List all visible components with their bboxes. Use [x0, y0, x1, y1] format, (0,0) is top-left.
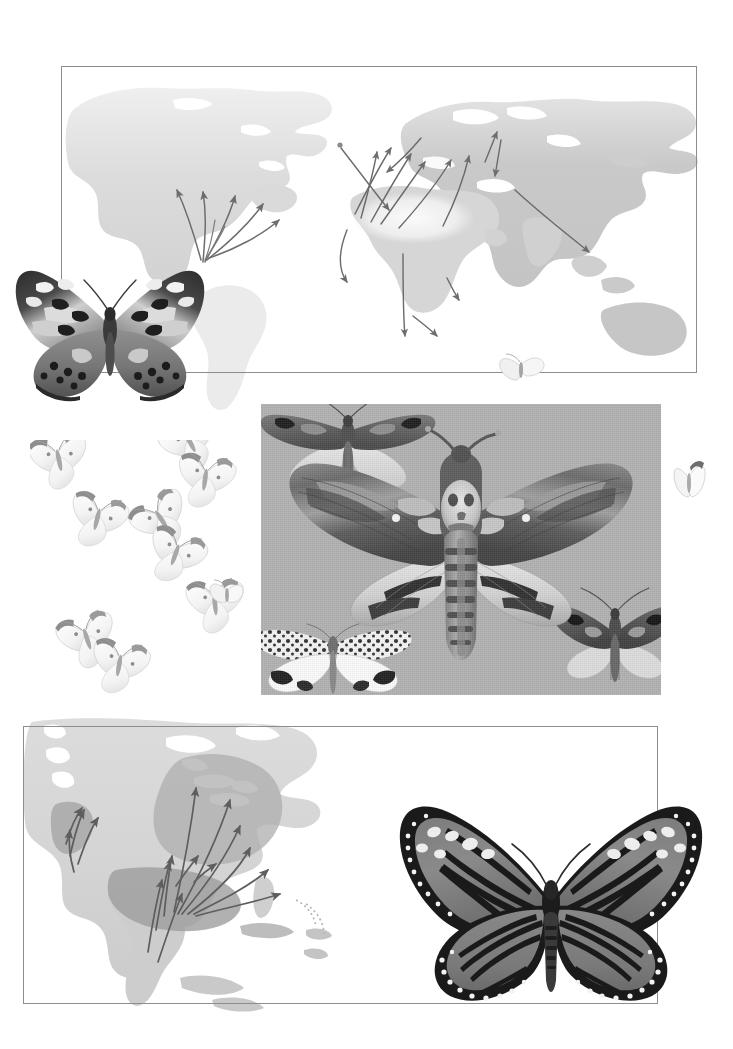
monarch-butterfly [392, 794, 710, 1016]
body [542, 880, 560, 992]
illustration-page [0, 0, 733, 1049]
